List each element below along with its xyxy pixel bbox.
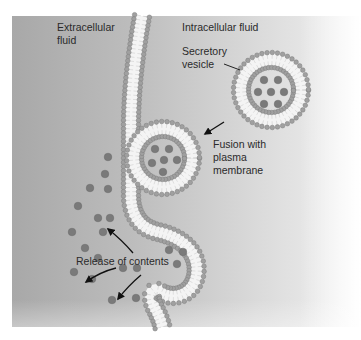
content-particle [70, 268, 78, 276]
content-particle [99, 228, 107, 236]
content-particle [132, 294, 140, 302]
content-particle [94, 214, 102, 222]
content-particle [81, 244, 89, 252]
content-particle [267, 88, 275, 96]
release-label: Release of contents [76, 255, 169, 267]
content-particle [106, 214, 114, 222]
content-particle [260, 76, 268, 84]
content-particle [160, 156, 168, 164]
content-particle [148, 159, 156, 167]
content-particle [274, 76, 282, 84]
intracellular-label: Intracellular fluid [182, 21, 259, 33]
content-particle [173, 156, 181, 164]
content-particle [86, 184, 94, 192]
content-particle [260, 100, 268, 108]
content-particle [104, 153, 112, 161]
content-particle [173, 260, 181, 268]
content-particle [280, 88, 288, 96]
content-particle [274, 100, 282, 108]
content-particle [68, 228, 76, 236]
content-particle [159, 168, 167, 176]
content-particle [74, 202, 82, 210]
content-particle [254, 88, 262, 96]
content-particle [165, 246, 173, 254]
content-particle [104, 185, 112, 193]
exocytosis-diagram: Extracellular fluid Intracellular fluid … [0, 0, 361, 340]
content-particle [151, 145, 159, 153]
content-particle [108, 296, 116, 304]
content-particle [179, 248, 187, 256]
content-particle [101, 170, 109, 178]
content-particle [165, 145, 173, 153]
